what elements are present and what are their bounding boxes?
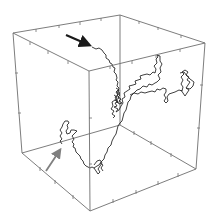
edge-top-back-right — [120, 15, 205, 43]
edge-bottom-back-right — [120, 125, 196, 169]
random-walk-figure — [0, 0, 214, 223]
edge-bottom-back-left — [22, 125, 120, 153]
cube-front-edges — [13, 15, 205, 211]
end-arrow-icon — [46, 150, 60, 171]
axis-ticks — [15, 18, 203, 203]
cube-plot — [0, 0, 214, 223]
edge-right-vertical — [196, 43, 205, 169]
start-arrow-icon — [66, 35, 89, 45]
edge-front-vertical — [89, 71, 90, 211]
edge-top-front-left — [13, 33, 89, 71]
edge-left-vertical — [13, 33, 22, 153]
edge-bottom-front-left — [22, 153, 90, 211]
cube-back-edges — [22, 15, 196, 169]
edge-top-back-left — [13, 15, 120, 33]
edge-bottom-front-right — [90, 169, 196, 211]
